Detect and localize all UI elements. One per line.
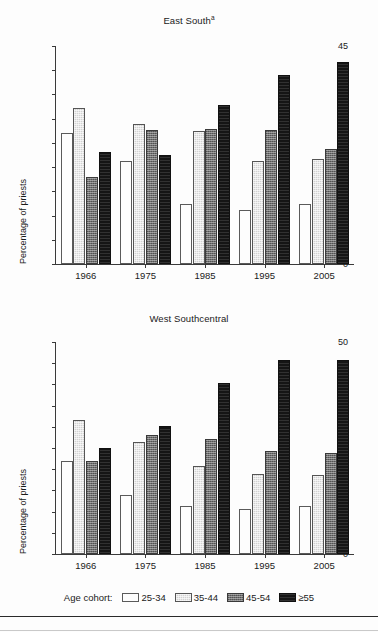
bar-group [175, 46, 235, 264]
bar-group [294, 46, 354, 264]
bar [159, 155, 171, 264]
bar [73, 420, 85, 554]
chart-title-top: East Southa [0, 14, 378, 28]
y-axis-tick [52, 264, 56, 265]
x-axis-tick-label: 1975 [135, 560, 156, 571]
chart-title-top-superscript: a [211, 14, 215, 21]
legend-item: ≥55 [279, 592, 314, 603]
legend-swatch [175, 593, 192, 602]
bar [239, 509, 251, 554]
x-axis-tick [86, 554, 87, 558]
plot-area-top: 05101520253035404519661975198519952005 [55, 46, 354, 265]
bar [120, 495, 132, 554]
x-axis-tick [205, 554, 206, 558]
x-axis-tick-label: 1975 [135, 270, 156, 281]
footer-divider-secondary [0, 630, 378, 631]
x-axis-tick-label: 1995 [254, 270, 275, 281]
bar [180, 506, 192, 554]
bar [73, 108, 85, 264]
legend: Age cohort: 25-3435-4445-54≥55 [0, 592, 378, 603]
bar [299, 506, 311, 554]
y-axis-tick [52, 554, 56, 555]
figure-root: East Southa Percentage of priests 051015… [0, 0, 378, 632]
bar [159, 426, 171, 554]
legend-label: 25-34 [141, 592, 165, 603]
x-axis-tick-label: 1966 [75, 560, 96, 571]
bar [218, 383, 230, 554]
bar [146, 435, 158, 554]
x-axis-tick-label: 2005 [314, 270, 335, 281]
bar [86, 177, 98, 264]
legend-item: 25-34 [122, 592, 165, 603]
bar [278, 75, 290, 264]
chart-panel-east-south: East Southa Percentage of priests 051015… [0, 14, 378, 304]
bar [99, 152, 111, 264]
bar [205, 439, 217, 554]
legend-swatch [279, 593, 296, 602]
x-axis-tick-label: 2005 [314, 560, 335, 571]
x-axis-tick [265, 264, 266, 268]
footer-divider [0, 616, 378, 617]
y-axis-label-top: Percentage of priests [18, 179, 28, 264]
x-axis-tick [324, 264, 325, 268]
bar [337, 360, 349, 554]
bar [325, 453, 337, 554]
chart-title-bottom-text: West Southcentral [149, 313, 228, 324]
chart-panel-west-southcentral: West Southcentral Percentage of priests … [0, 312, 378, 582]
bar [337, 62, 349, 264]
bar [133, 442, 145, 554]
bar [120, 161, 132, 264]
bar [99, 448, 111, 554]
legend-swatch [227, 593, 244, 602]
bar [146, 130, 158, 264]
bar-group [56, 46, 116, 264]
bar [325, 149, 337, 264]
bar-group [235, 342, 295, 554]
bar-group [235, 46, 295, 264]
x-axis-tick [86, 264, 87, 268]
x-axis-tick-label: 1966 [75, 270, 96, 281]
bar [278, 360, 290, 554]
legend-label: ≥55 [298, 592, 314, 603]
legend-label: 35-44 [194, 592, 218, 603]
legend-label: 45-54 [246, 592, 270, 603]
bar-group [116, 46, 176, 264]
bar [252, 474, 264, 554]
bar [265, 451, 277, 554]
chart-title-top-text: East South [163, 15, 210, 26]
bar-group [56, 342, 116, 554]
bar [61, 133, 73, 264]
bar-group [294, 342, 354, 554]
bar [61, 461, 73, 554]
x-axis-tick-label: 1985 [194, 270, 215, 281]
y-axis-label-bottom: Percentage of priests [18, 469, 28, 554]
bar-group [116, 342, 176, 554]
x-axis-tick-label: 1985 [194, 560, 215, 571]
legend-item: 45-54 [227, 592, 270, 603]
bar [86, 461, 98, 554]
bar-groups [56, 342, 354, 554]
bar [252, 161, 264, 264]
bar [193, 466, 205, 554]
x-axis-tick-label: 1995 [254, 560, 275, 571]
plot-area-bottom: 0510152025303540455019661975198519952005 [55, 342, 354, 555]
bar-groups [56, 46, 354, 264]
bar-group [175, 342, 235, 554]
legend-title: Age cohort: [64, 592, 113, 603]
bar [312, 159, 324, 264]
bar [299, 204, 311, 264]
x-axis-tick [145, 264, 146, 268]
legend-swatch [122, 593, 139, 602]
x-axis-tick [145, 554, 146, 558]
x-axis-tick [205, 264, 206, 268]
x-axis-tick [265, 554, 266, 558]
bar [218, 105, 230, 264]
bar [205, 129, 217, 264]
chart-title-bottom: West Southcentral [0, 312, 378, 326]
legend-item: 35-44 [175, 592, 218, 603]
bar [180, 204, 192, 264]
bar [265, 130, 277, 264]
bar [312, 475, 324, 554]
bar [239, 210, 251, 264]
x-axis-tick [324, 554, 325, 558]
